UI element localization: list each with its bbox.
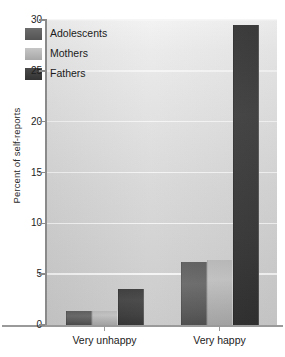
x-axis-tick-mark [219, 326, 221, 331]
y-axis-tick-mark [39, 223, 45, 225]
x-axis-category-label: Very happy [193, 334, 246, 346]
y-axis-tick-mark [39, 324, 45, 326]
bar-mothers [92, 311, 118, 325]
y-axis-tick-mark [39, 121, 45, 123]
x-axis-category-label: Very unhappy [72, 334, 136, 346]
legend-swatch-icon [25, 48, 42, 60]
y-axis-tick-mark [39, 273, 45, 275]
y-axis-title: Percent of self-reports [11, 76, 22, 236]
bar-mothers [207, 260, 233, 325]
legend: Adolescents Mothers Fathers [25, 25, 107, 85]
legend-item-mothers: Mothers [25, 45, 107, 62]
legend-label: Mothers [50, 48, 88, 59]
y-axis-tick-mark [39, 19, 45, 21]
y-axis-tick-mark [39, 70, 45, 72]
legend-swatch-icon [25, 28, 42, 40]
legend-item-adolescents: Adolescents [25, 25, 107, 42]
bar-adolescents [66, 311, 92, 325]
x-axis-tick-mark [104, 326, 106, 331]
legend-label: Adolescents [50, 28, 107, 39]
bar-fathers [118, 289, 144, 325]
gridline [47, 19, 277, 21]
bar-adolescents [181, 262, 207, 325]
y-axis-tick-mark [39, 172, 45, 174]
legend-label: Fathers [50, 68, 86, 79]
bar-chart-figure: Percent of self-reports Adolescents Moth… [0, 0, 285, 357]
bar-fathers [233, 25, 259, 325]
